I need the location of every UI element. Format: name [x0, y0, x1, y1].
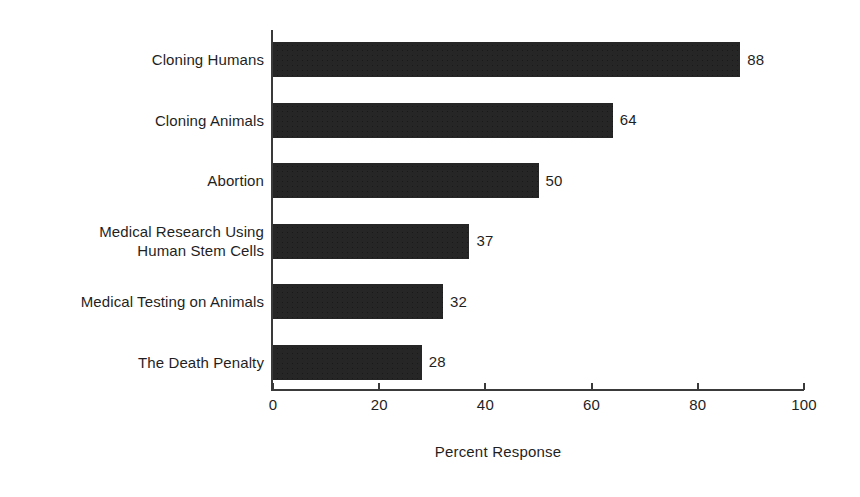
bar [273, 163, 539, 198]
bar-value-label: 88 [747, 51, 764, 68]
x-axis-title-text: Percent Response [435, 443, 562, 460]
x-tick-label-2: 40 [455, 396, 515, 413]
category-label: Medical Research Using Human Stem Cells [0, 222, 264, 260]
bar-value-label: 28 [429, 353, 446, 370]
x-axis-tick-1 [378, 383, 380, 390]
bar [273, 224, 469, 259]
bar-value-label: 32 [450, 293, 467, 310]
bar-value-label: 37 [476, 232, 493, 249]
x-axis-tick-2 [484, 383, 486, 390]
x-tick-label-3: 60 [562, 396, 622, 413]
category-label: Medical Testing on Animals [0, 292, 264, 311]
bar [273, 42, 740, 77]
x-axis-tick-4 [697, 383, 699, 390]
category-label: The Death Penalty [0, 353, 264, 372]
category-label: Cloning Humans [0, 50, 264, 69]
category-label: Cloning Animals [0, 111, 264, 130]
x-tick-label-0: 0 [243, 396, 303, 413]
bar [273, 284, 443, 319]
x-axis-title: Percent Response [0, 443, 860, 460]
bar [273, 103, 613, 138]
x-tick-label-5: 100 [774, 396, 834, 413]
bar-chart: 0 20 40 60 80 100 Cloning Humans Cloning… [0, 0, 860, 497]
x-axis-tick-0 [272, 383, 274, 390]
bar-value-label: 64 [620, 111, 637, 128]
x-tick-label-1: 20 [349, 396, 409, 413]
category-label: Abortion [0, 171, 264, 190]
x-axis-tick-5 [803, 383, 805, 390]
y-axis-line [271, 30, 273, 390]
x-tick-label-4: 80 [668, 396, 728, 413]
x-axis-tick-3 [591, 383, 593, 390]
bar-value-label: 50 [546, 172, 563, 189]
x-axis-line [271, 389, 804, 391]
bar [273, 345, 422, 380]
